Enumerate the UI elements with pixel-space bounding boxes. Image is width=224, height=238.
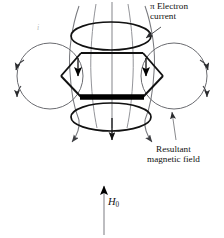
figure-canvas: π Electron current Resultant magnetic fi… bbox=[0, 0, 224, 238]
circle-field-left bbox=[16, 43, 83, 109]
label-current-i: i bbox=[37, 24, 39, 33]
ellipse-pi-current-top bbox=[71, 22, 151, 50]
ellipse-pi-current-bottom bbox=[71, 103, 151, 131]
resultant-magnetic-field-line1: Resultant bbox=[147, 144, 200, 154]
label-resultant-magnetic-field: Resultant magnetic field bbox=[147, 144, 200, 165]
applied-field-subscript: 0 bbox=[116, 201, 120, 209]
central-field-lines bbox=[69, 2, 154, 142]
leader-resultant-magnetic-field bbox=[172, 112, 176, 140]
label-applied-field-h0: H0 bbox=[108, 196, 119, 209]
applied-field-symbol: H bbox=[108, 196, 116, 207]
resultant-magnetic-field-line2: magnetic field bbox=[147, 154, 200, 164]
pi-electron-current-line2: current bbox=[150, 11, 188, 21]
pi-electron-current-line1: π Electron bbox=[150, 1, 188, 11]
circle-field-right bbox=[141, 43, 208, 109]
label-pi-electron-current: π Electron current bbox=[150, 1, 188, 22]
leader-pi-electron-current bbox=[146, 27, 161, 38]
